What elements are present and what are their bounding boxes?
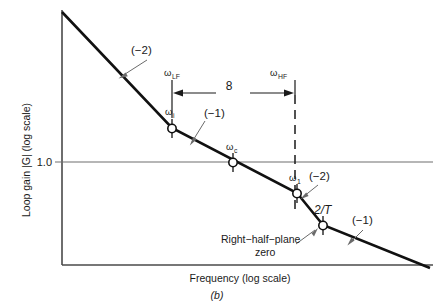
omega-hf-label: ω HF [270,67,287,80]
figure-caption: (b) [211,289,224,301]
dimension-arrow-right [284,90,294,97]
svg-text:ω: ω [164,67,172,78]
svg-text:ω: ω [226,141,234,152]
omega-1-label: ω 1 [289,172,301,185]
svg-text:1: 1 [297,178,301,185]
slope-label-second: (−1) [204,107,225,119]
two-over-t-label: 2/T [313,203,333,217]
svg-text:ω: ω [165,106,173,117]
svg-text:c: c [234,147,238,154]
figure-container: (−2) (−1) (−2) (−1) ω LF ω HF 8 ω i ω c … [0,0,435,302]
breakpoint-marker-omega-1 [293,184,301,203]
svg-text:ω: ω [289,172,297,183]
loop-gain-curve [62,12,430,268]
rhp-zero-label-line1: Right−half−plane [221,233,301,245]
dimension-value-label: 8 [226,79,233,93]
slope-label-first: (−2) [131,44,152,56]
svg-text:ω: ω [270,67,278,78]
rhp-zero-label-line2: zero [255,246,276,258]
y-axis-label: Loop gain |G| (log scale) [20,103,32,217]
breakpoint-marker-two-over-t [319,216,327,235]
omega-i-label: ω i [165,106,175,119]
breakpoint-marker-omega-i [168,119,176,138]
y-axis-tick-label: 1.0 [37,156,52,168]
breakpoint-marker-omega-c [229,153,237,172]
slope-label-third: (−2) [309,170,330,182]
x-axis-label: Frequency (log scale) [190,272,291,284]
svg-text:HF: HF [278,73,287,80]
slope-label-fourth: (−1) [352,214,373,226]
bode-asymptote-plot: (−2) (−1) (−2) (−1) ω LF ω HF 8 ω i ω c … [0,0,435,302]
svg-text:LF: LF [172,73,180,80]
dimension-arrow-left [173,90,183,97]
omega-lf-label: ω LF [164,67,180,80]
svg-text:i: i [173,112,175,119]
omega-c-label: ω c [226,141,238,154]
